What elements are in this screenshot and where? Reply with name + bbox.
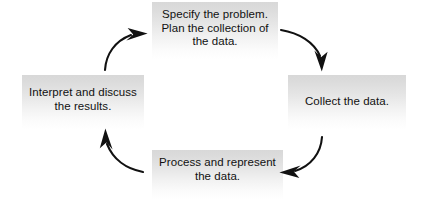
arrow-specify-to-collect <box>281 30 328 72</box>
stage-box-interpret: Interpret and discuss the results. <box>22 75 144 129</box>
stage-label-process: Process and represent the data. <box>156 156 279 183</box>
stage-box-specify: Specify the problem. Plan the collection… <box>152 2 278 59</box>
stage-label-interpret: Interpret and discuss the results. <box>26 86 140 113</box>
stage-label-specify: Specify the problem. Plan the collection… <box>156 8 274 49</box>
stage-label-collect: Collect the data. <box>292 95 402 109</box>
statistics-cycle-diagram: Specify the problem. Plan the collection… <box>0 0 424 210</box>
arrow-head-right-icon <box>126 28 147 41</box>
arrow-head-up-icon <box>100 128 113 149</box>
arrow-curve-interpret-to-specify <box>105 35 131 70</box>
arrow-head-down-icon <box>314 51 327 72</box>
arrow-collect-to-process <box>279 137 322 178</box>
arrow-interpret-to-specify <box>105 28 148 70</box>
arrow-curve-process-to-interpret <box>107 144 143 172</box>
stage-box-process: Process and represent the data. <box>152 150 283 199</box>
arrow-process-to-interpret <box>100 128 143 172</box>
stage-box-collect: Collect the data. <box>288 75 406 129</box>
arrow-curve-specify-to-collect <box>281 30 320 56</box>
arrow-curve-collect-to-process <box>295 137 322 171</box>
